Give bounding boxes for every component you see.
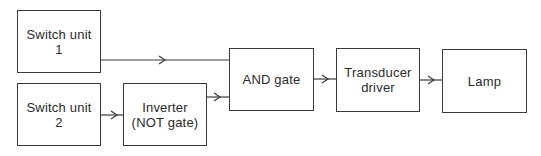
- block-transducer-driver: Transducer driver: [336, 48, 420, 112]
- block-label: AND gate: [243, 72, 301, 87]
- block-label: (NOT gate): [132, 115, 199, 130]
- block-label: Transducer: [344, 65, 411, 80]
- block-lamp: Lamp: [442, 49, 527, 113]
- block-switch-unit-2: Switch unit 2: [17, 83, 101, 146]
- block-label: Switch unit: [26, 27, 91, 42]
- block-switch-unit-1: Switch unit 1: [17, 10, 101, 73]
- block-label: Lamp: [468, 74, 501, 89]
- block-label: Switch unit: [26, 100, 91, 115]
- block-label: 1: [55, 42, 62, 57]
- block-and-gate: AND gate: [229, 48, 314, 111]
- block-label: driver: [361, 80, 395, 95]
- block-label: 2: [55, 115, 62, 130]
- block-inverter: Inverter (NOT gate): [123, 83, 207, 146]
- block-label: Inverter: [142, 100, 188, 115]
